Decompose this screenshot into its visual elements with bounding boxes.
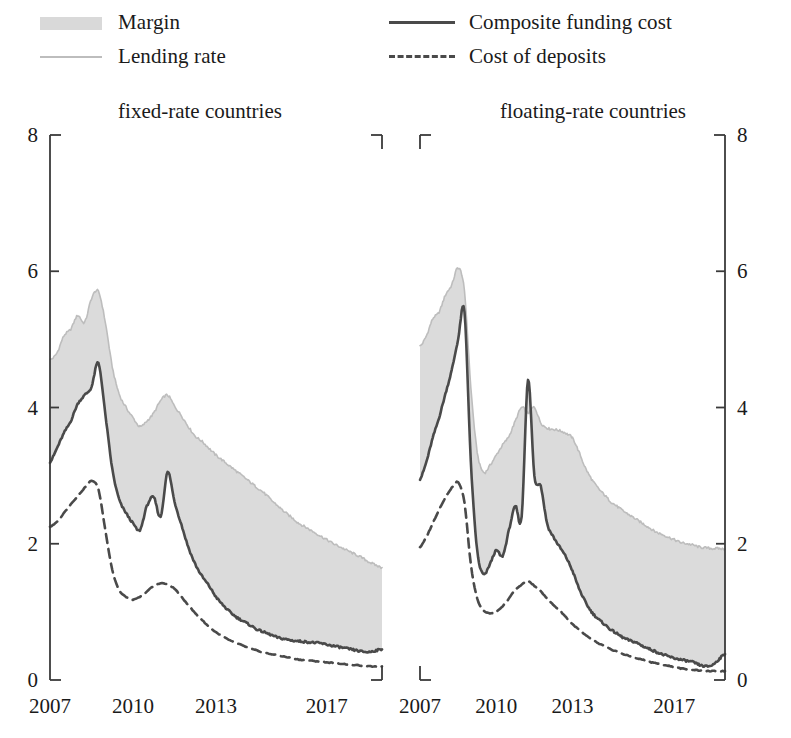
dark-dashed-line-icon	[387, 48, 455, 66]
x-axis-tick-label: 2007	[29, 694, 71, 718]
plot-area-right: 024682007201020132017	[395, 92, 791, 738]
x-axis-tick-label: 2013	[552, 694, 594, 718]
y-axis-tick-label: 6	[28, 259, 39, 283]
panel-fixed-rate-countries: fixed-rate countries 0246820072010201320…	[0, 92, 400, 738]
y-axis-tick-label: 2	[737, 532, 748, 556]
legend-label-composite-funding-cost: Composite funding cost	[469, 12, 672, 33]
legend-item-margin: Margin	[36, 12, 180, 33]
y-axis-tick-label: 6	[737, 259, 748, 283]
legend-label-margin: Margin	[118, 12, 180, 33]
dark-solid-line-icon	[387, 14, 455, 32]
chart-legend: Margin Lending rate Composite funding co…	[0, 0, 791, 92]
y-axis-tick-label: 2	[28, 532, 39, 556]
legend-item-composite-funding-cost: Composite funding cost	[387, 12, 672, 33]
plot-content	[420, 268, 725, 672]
y-axis-tick-label: 8	[737, 123, 748, 147]
x-axis-tick-label: 2017	[306, 694, 348, 718]
y-axis-tick-label: 8	[28, 123, 39, 147]
x-axis-tick-label: 2017	[653, 694, 695, 718]
plot-content	[50, 289, 382, 666]
x-axis-tick-label: 2007	[399, 694, 441, 718]
plot-area-left: 024682007201020132017	[0, 92, 400, 738]
legend-label-cost-of-deposits: Cost of deposits	[469, 46, 606, 67]
y-axis-tick-label: 0	[28, 668, 39, 692]
x-axis-tick-label: 2010	[475, 694, 517, 718]
x-axis-tick-label: 2010	[112, 694, 154, 718]
y-axis-tick-label: 4	[737, 396, 748, 420]
y-axis-tick-label: 4	[28, 396, 39, 420]
y-axis-tick-label: 0	[737, 668, 748, 692]
chart-figure: Margin Lending rate Composite funding co…	[0, 0, 791, 738]
light-solid-line-icon	[36, 48, 104, 66]
legend-item-cost-of-deposits: Cost of deposits	[387, 46, 606, 67]
panel-floating-rate-countries: floating-rate countries 0246820072010201…	[395, 92, 791, 738]
legend-item-lending-rate: Lending rate	[36, 46, 226, 67]
x-axis-tick-label: 2013	[195, 694, 237, 718]
legend-label-lending-rate: Lending rate	[118, 46, 226, 67]
margin-swatch-icon	[36, 14, 104, 32]
